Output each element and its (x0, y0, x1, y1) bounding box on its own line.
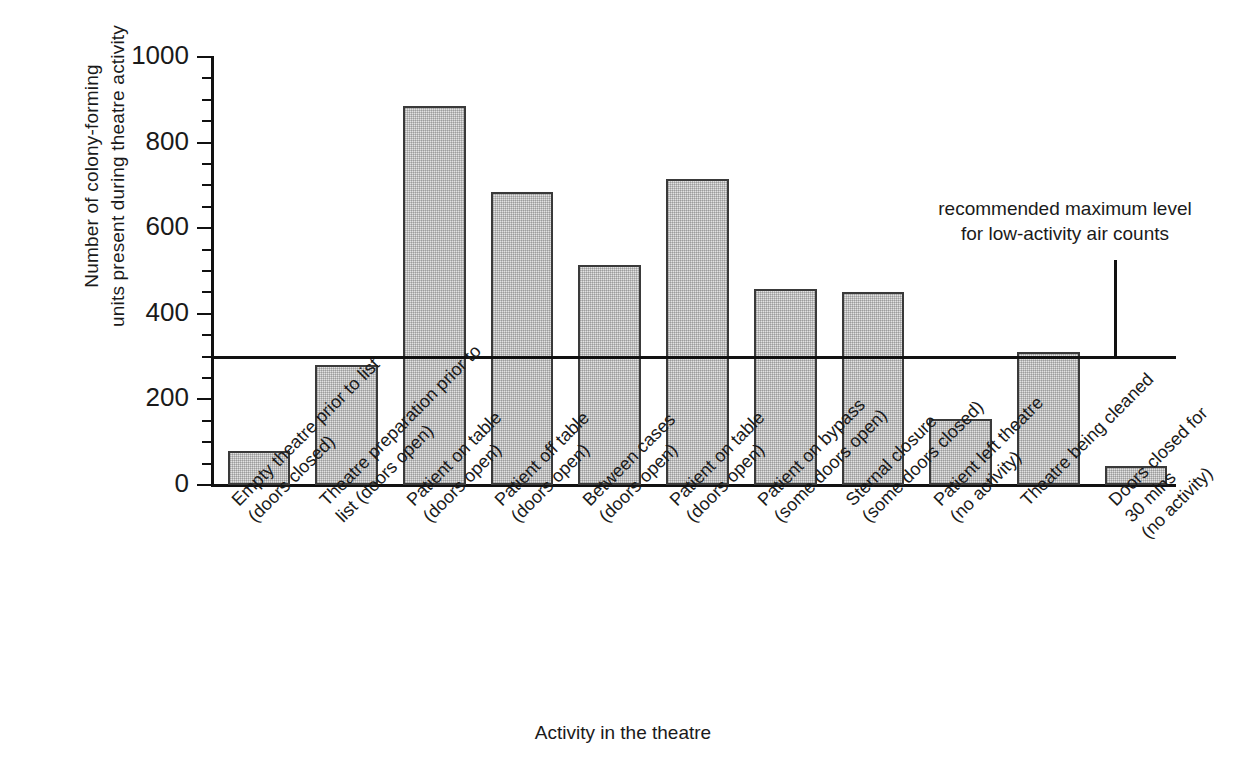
y-tick-label: 800 (79, 128, 189, 154)
y-tick-minor (202, 377, 211, 379)
x-axis-title: Activity in the theatre (0, 722, 1246, 744)
reference-line-annotation: recommended maximum level for low-activi… (905, 196, 1225, 246)
y-tick-major (197, 142, 211, 144)
y-tick-minor (202, 334, 211, 336)
annotation-leader-line (1114, 260, 1117, 357)
y-tick-major (197, 484, 211, 486)
y-tick-minor (202, 99, 211, 101)
y-tick-minor (202, 249, 211, 251)
y-tick-major (197, 398, 211, 400)
y-tick-label: 600 (79, 213, 189, 239)
y-tick-minor (202, 291, 211, 293)
y-tick-minor (202, 356, 211, 358)
y-tick-minor (202, 463, 211, 465)
y-tick-minor (202, 441, 211, 443)
y-tick-label: 0 (79, 470, 189, 496)
y-tick-minor (202, 270, 211, 272)
y-tick-minor (202, 163, 211, 165)
y-tick-minor (202, 77, 211, 79)
y-tick-label: 1000 (79, 42, 189, 68)
y-tick-label: 200 (79, 384, 189, 410)
chart-canvas: Number of colony-forming units present d… (0, 0, 1246, 780)
y-tick-minor (202, 184, 211, 186)
reference-line (211, 356, 1176, 359)
y-tick-major (197, 227, 211, 229)
y-tick-minor (202, 206, 211, 208)
y-tick-major (197, 56, 211, 58)
y-tick-minor (202, 120, 211, 122)
y-tick-label: 400 (79, 299, 189, 325)
y-tick-minor (202, 420, 211, 422)
y-tick-major (197, 313, 211, 315)
